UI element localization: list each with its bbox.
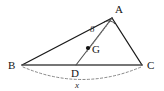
- arc-bc: [23, 67, 141, 80]
- length-label-8: 8: [90, 24, 95, 34]
- side-ab: [22, 18, 112, 65]
- vertex-label-d: D: [71, 67, 79, 79]
- vertex-label-b: B: [8, 59, 15, 71]
- side-ac: [112, 18, 142, 65]
- vertex-label-a: A: [115, 3, 123, 15]
- geometry-figure-container: A B C D G 8 x: [0, 0, 164, 91]
- point-g-dot: [86, 46, 90, 50]
- vertex-label-g: G: [92, 43, 100, 55]
- length-label-x: x: [74, 80, 79, 90]
- geometry-diagram: A B C D G 8 x: [0, 0, 164, 91]
- vertex-label-c: C: [147, 59, 154, 71]
